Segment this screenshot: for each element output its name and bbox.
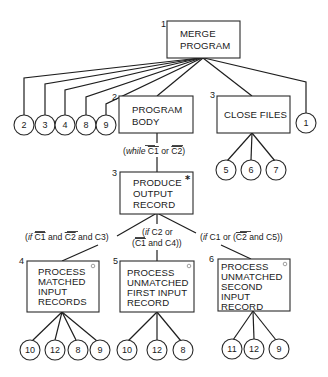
edge-cond-second-to-box6: [221, 245, 251, 259]
edge-box6-to-op-12: [253, 311, 254, 339]
edge-box5-to-op-10: [128, 312, 157, 341]
condition-unmatched-first-line1: (if C2 or: [142, 227, 173, 237]
node-label-line: RECORDS: [38, 296, 87, 307]
cond-keyword: while: [126, 146, 146, 156]
cond-part-negated: C1: [35, 232, 46, 242]
node-label-line: CLOSE FILES: [224, 109, 287, 120]
node-number: 2: [112, 92, 117, 102]
edge-box6-to-op-9: [253, 311, 276, 340]
edge-box4-to-op-8: [62, 312, 76, 340]
cond-part: and C4)): [146, 238, 182, 248]
operation-number: 7: [273, 165, 278, 175]
condition-matched: (if C1 and C2 and C3): [25, 232, 109, 242]
condition-unmatched-first-line2: (C1 and C4)): [132, 238, 182, 248]
operation-number: 9: [276, 344, 281, 354]
ops-process-matched: 10 12 8 9: [20, 340, 110, 360]
edge-close-to-op-6: [251, 133, 252, 160]
cond-part-negated: C2: [65, 232, 76, 242]
cond-part: and: [46, 232, 65, 242]
node-program-body: 2 PROGRAM BODY: [112, 92, 193, 133]
operation-number: 1: [303, 118, 308, 128]
operation-number: 12: [50, 345, 60, 355]
node-number: 6: [209, 254, 214, 264]
node-label-line: MERGE: [180, 28, 216, 39]
cond-part-negated: C1: [135, 238, 146, 248]
cond-part-negated: C2: [236, 232, 247, 242]
node-label-line: PROGRAM: [132, 104, 182, 115]
node-label-line: BODY: [132, 116, 160, 127]
operation-number: 12: [152, 345, 162, 355]
cond-part: and C3): [76, 232, 109, 242]
edge-box5-to-op-8: [157, 312, 181, 341]
operation-number: 11: [227, 344, 236, 354]
edge-box4-to-op-10: [32, 312, 62, 341]
ops-process-unmatched-second: 11 12 9: [222, 339, 289, 359]
edge-box6-to-op-11: [233, 311, 253, 340]
node-number: 3: [210, 90, 215, 100]
node-label-line: OUTPUT: [133, 188, 173, 199]
node-process-matched-input-records: 4 PROCESS MATCHED INPUT RECORDS: [19, 256, 99, 312]
operation-number: 6: [248, 165, 253, 175]
node-process-unmatched-second-input-record: 6 PROCESS UNMATCHED SECOND INPUT RECORD: [209, 254, 290, 312]
iteration-marker-icon: *: [185, 174, 191, 185]
condition-while-c1-or-c2: (while C1 or C2): [123, 146, 185, 156]
edge-close-to-op-7: [252, 133, 275, 161]
node-close-files: 3 CLOSE FILES: [210, 90, 290, 133]
cond-part: C2 or: [149, 227, 173, 237]
operation-number: 9: [103, 120, 108, 130]
operation-number: 8: [75, 345, 80, 355]
condition-unmatched-second: (if C1 or (C2 and C5)): [200, 232, 283, 242]
edge-box4-to-op-9: [62, 312, 97, 341]
operation-number: 12: [249, 344, 259, 354]
operation-number: 8: [83, 120, 88, 130]
operation-number: 8: [180, 345, 185, 355]
operation-number: 9: [97, 345, 102, 355]
operation-number: 2: [21, 120, 26, 130]
operation-number: 5: [223, 165, 228, 175]
node-label-line: RECORD: [127, 297, 169, 308]
node-produce-output-record: 3 PRODUCE OUTPUT RECORD *: [112, 168, 193, 214]
node-label-line: RECORD: [221, 301, 263, 312]
cond-part: or: [159, 146, 171, 156]
operation-number: 10: [25, 345, 35, 355]
cond-part-negated: C1: [148, 146, 159, 156]
node-label-line: PROGRAM: [180, 40, 230, 51]
edge-cond-matched-to-box4: [62, 245, 98, 261]
operation-number: 3: [42, 120, 47, 130]
node-label-line: RECORD: [133, 199, 175, 210]
cond-part: C1 or (: [207, 232, 236, 242]
cond-part-negated: C2: [171, 146, 182, 156]
node-merge-program: 1 MERGE PROGRAM: [161, 19, 240, 58]
cond-part: and C5)): [247, 232, 283, 242]
cond-part: ): [182, 146, 185, 156]
node-number: 3: [112, 168, 117, 178]
node-process-unmatched-first-input-record: 5 PROCESS UNMATCHED FIRST INPUT RECORD: [113, 256, 194, 312]
ops-process-unmatched-first: 10 12 8: [117, 340, 193, 360]
node-label-line: PRODUCE: [133, 177, 182, 188]
operation-number: 4: [62, 120, 67, 130]
operation-number: 10: [122, 345, 132, 355]
node-number: 4: [19, 256, 24, 266]
edge-close-to-op-5: [227, 133, 252, 161]
node-number: 5: [113, 256, 118, 266]
jackson-structure-diagram: 1 MERGE PROGRAM 2 PROGRAM BODY 3 CLOSE F…: [0, 0, 328, 377]
node-number: 1: [161, 19, 166, 29]
ops-close-files: 5 6 7: [216, 160, 286, 180]
